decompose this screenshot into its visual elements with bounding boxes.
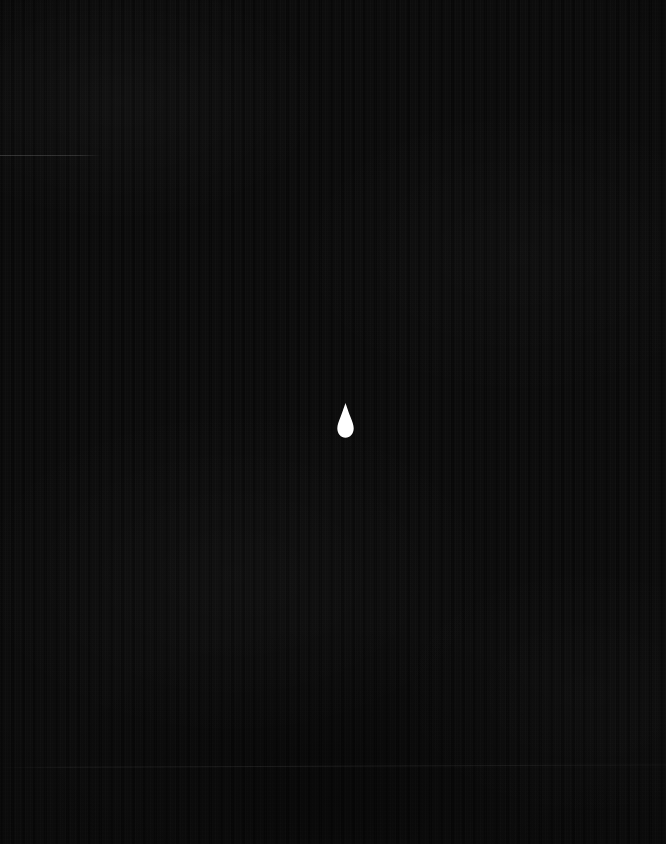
background-base [0,0,666,844]
droplet-splash-screen [0,0,666,844]
water-drop-icon [337,403,354,438]
app-logo [337,403,354,438]
